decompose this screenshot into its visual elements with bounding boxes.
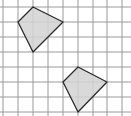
grid-diagram [0, 0, 131, 116]
grid-lines [0, 0, 131, 116]
quadrilateral-upper-left [18, 7, 63, 52]
quadrilateral-lower-right [63, 67, 107, 112]
